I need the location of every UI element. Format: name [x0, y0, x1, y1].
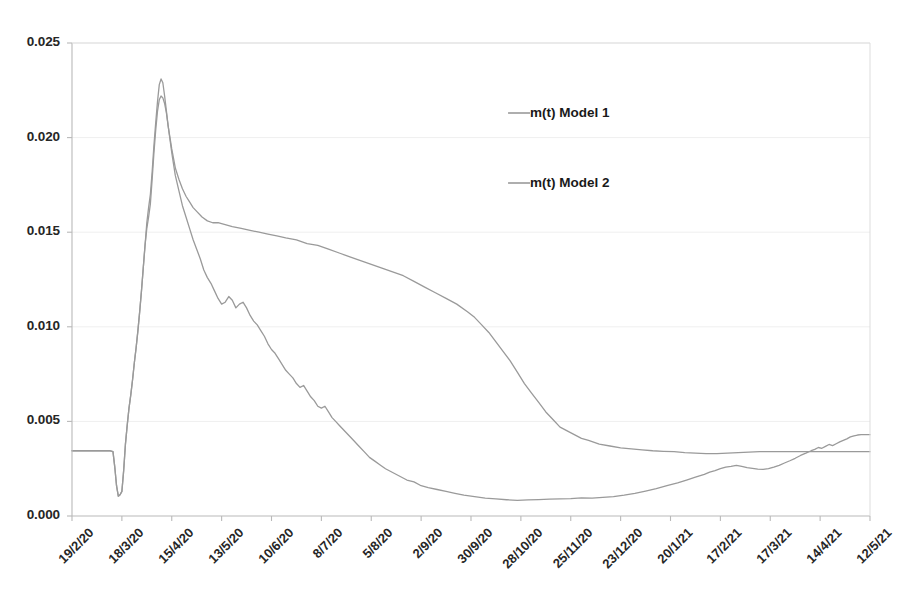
data-series-group	[72, 79, 870, 500]
axis-ticks	[67, 43, 870, 521]
line-chart-plot	[0, 0, 901, 597]
chart-container: 0.0000.0050.0100.0150.0200.025 19/2/2018…	[0, 0, 901, 597]
legend-label-model-1: m(t) Model 1	[530, 105, 610, 120]
y-tick-label: 0.000	[0, 507, 60, 522]
legend-label-model-2: m(t) Model 2	[530, 175, 610, 190]
legend-swatches	[508, 113, 530, 183]
series-line-1	[72, 79, 870, 496]
plot-frame	[72, 43, 870, 516]
y-tick-label: 0.005	[0, 412, 60, 427]
y-tick-label: 0.020	[0, 129, 60, 144]
y-tick-label: 0.025	[0, 34, 60, 49]
gridlines	[72, 43, 870, 421]
y-tick-label: 0.015	[0, 223, 60, 238]
series-line-2	[72, 96, 870, 500]
y-tick-label: 0.010	[0, 318, 60, 333]
